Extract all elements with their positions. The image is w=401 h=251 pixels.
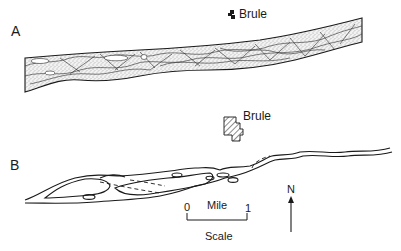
braided-river-a [25, 18, 362, 92]
north-arrow-icon [288, 196, 294, 232]
abandoned-channel-lines [100, 156, 270, 193]
scale-start-label: 0 [184, 202, 190, 213]
scale-caption: Scale [205, 231, 233, 242]
scale-end-label: 1 [245, 203, 251, 214]
town-symbol-b [224, 117, 243, 141]
channel-river-b [25, 148, 392, 203]
town-label-a: Brule [239, 8, 267, 20]
map-figure: A Brule B Brule 0 Mile 1 Scale N [0, 0, 401, 251]
panel-label-b: B [10, 158, 19, 172]
scale-unit-label: Mile [207, 200, 227, 211]
town-symbol-a [228, 10, 235, 19]
town-label-b: Brule [243, 110, 271, 122]
north-label: N [287, 184, 295, 195]
scale-bar [187, 213, 247, 220]
map-drawing [0, 0, 401, 251]
panel-label-a: A [11, 24, 20, 38]
